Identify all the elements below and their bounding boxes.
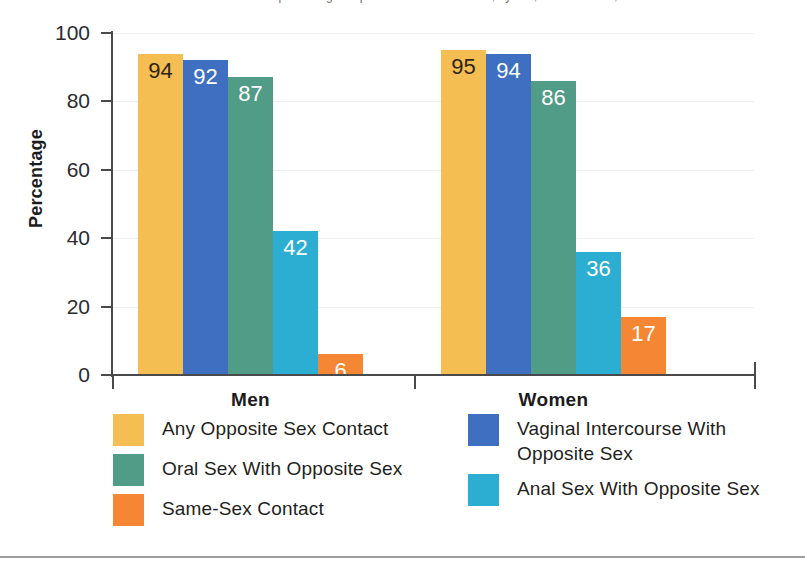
bar-value-label: 92	[183, 66, 228, 88]
y-tick-60	[101, 169, 112, 171]
bar-men-1: 92	[183, 60, 228, 375]
x-axis-line	[111, 374, 756, 376]
legend-label: Same-Sex Contact	[162, 494, 324, 521]
y-tick-label-100: 100	[26, 22, 90, 43]
cropped-caption-text: the percentages reported for each behavi…	[258, 0, 648, 3]
bar-value-label: 6	[318, 360, 363, 382]
bar-women-1: 94	[486, 54, 531, 375]
bar-men-2: 87	[228, 77, 273, 375]
bar-women-2: 86	[531, 81, 576, 375]
y-tick-100	[101, 32, 112, 34]
bar-chart-figure: the percentages reported for each behavi…	[0, 0, 805, 567]
legend-column-right: Vaginal Intercourse With Opposite SexAna…	[468, 414, 798, 514]
y-tick-80	[101, 100, 112, 102]
legend-label: Anal Sex With Opposite Sex	[517, 474, 760, 501]
legend-label: Any Opposite Sex Contact	[162, 414, 388, 441]
bar-value-label: 17	[621, 323, 666, 345]
legend-item[interactable]: Same-Sex Contact	[113, 494, 453, 526]
x-axis-tick-0	[112, 376, 114, 389]
legend-swatch-icon	[113, 414, 144, 446]
y-tick-label-0: 0	[26, 364, 90, 385]
legend-item[interactable]: Anal Sex With Opposite Sex	[468, 474, 798, 506]
bar-women-4: 17	[621, 317, 666, 375]
cropped-caption-sliver: the percentages reported for each behavi…	[0, 0, 805, 6]
legend-swatch-icon	[113, 454, 144, 486]
plot-area: 9492874269594863617	[112, 33, 754, 375]
x-group-label-men: Men	[151, 389, 351, 411]
legend-column-left: Any Opposite Sex ContactOral Sex With Op…	[113, 414, 453, 534]
bar-men-4: 6	[318, 354, 363, 375]
y-axis-title: Percentage	[26, 79, 47, 279]
legend-item[interactable]: Oral Sex With Opposite Sex	[113, 454, 453, 486]
legend-swatch-icon	[468, 414, 499, 446]
bar-value-label: 86	[531, 87, 576, 109]
legend-label: Vaginal Intercourse With Opposite Sex	[517, 414, 798, 466]
x-axis-tick-1	[414, 376, 416, 389]
legend-swatch-icon	[468, 474, 499, 506]
chart-legend: Any Opposite Sex ContactOral Sex With Op…	[0, 414, 805, 544]
bar-value-label: 87	[228, 83, 273, 105]
bottom-divider-rule	[0, 556, 805, 558]
bar-women-0: 95	[441, 50, 486, 375]
legend-label: Oral Sex With Opposite Sex	[162, 454, 402, 481]
legend-item[interactable]: Vaginal Intercourse With Opposite Sex	[468, 414, 798, 466]
bar-value-label: 94	[138, 60, 183, 82]
bar-value-label: 36	[576, 258, 621, 280]
bar-value-label: 95	[441, 56, 486, 78]
legend-swatch-icon	[113, 494, 144, 526]
bar-men-0: 94	[138, 54, 183, 375]
y-tick-40	[101, 237, 112, 239]
bar-men-3: 42	[273, 231, 318, 375]
bar-women-3: 36	[576, 252, 621, 375]
y-tick-20	[101, 306, 112, 308]
y-axis-line	[111, 31, 113, 377]
bar-value-label: 94	[486, 60, 531, 82]
x-axis-tick-2	[754, 376, 756, 389]
gridline-100	[112, 33, 754, 34]
x-group-label-women: Women	[454, 389, 654, 411]
x-axis-end-cap	[754, 362, 756, 376]
y-tick-label-20: 20	[26, 296, 90, 317]
legend-item[interactable]: Any Opposite Sex Contact	[113, 414, 453, 446]
y-tick-0	[101, 374, 112, 376]
bar-value-label: 42	[273, 237, 318, 259]
